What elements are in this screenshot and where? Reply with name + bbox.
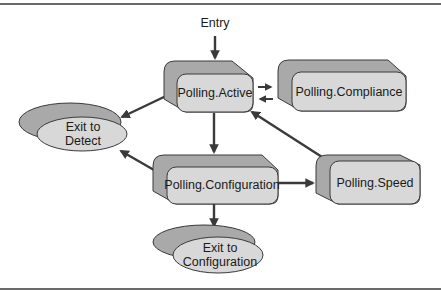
arrow-speed-to-active xyxy=(252,112,322,157)
state-polling-configuration[interactable]: Polling.Configuration xyxy=(153,155,280,204)
arrow-active-to-detect xyxy=(122,96,166,117)
state-label: Polling.Active xyxy=(177,86,252,100)
state-diagram: Entry Polling.Active Polling.Compliance … xyxy=(0,0,441,293)
exit-label-line2: Detect xyxy=(65,134,102,148)
exit-label-line1: Exit to xyxy=(66,120,101,134)
exit-to-configuration[interactable]: Exit to Configuration xyxy=(153,225,263,273)
entry-label: Entry xyxy=(200,16,230,30)
state-polling-active[interactable]: Polling.Active xyxy=(164,61,253,112)
exit-label-line1: Exit to xyxy=(203,241,238,255)
state-label: Polling.Configuration xyxy=(164,178,279,192)
exit-to-detect[interactable]: Exit to Detect xyxy=(19,103,127,151)
state-label: Polling.Speed xyxy=(336,176,413,190)
exit-label-line2: Configuration xyxy=(183,255,257,269)
state-polling-compliance[interactable]: Polling.Compliance xyxy=(278,60,406,111)
state-polling-speed[interactable]: Polling.Speed xyxy=(316,155,420,204)
arrow-configuration-to-detect xyxy=(121,151,154,170)
state-label: Polling.Compliance xyxy=(295,85,402,99)
